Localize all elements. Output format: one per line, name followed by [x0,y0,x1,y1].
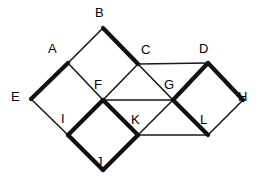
vertex-label-h: H [238,90,247,103]
edge-d-g [173,63,208,100]
edge-c-d [138,63,208,64]
vertex-label-k: K [131,113,140,126]
edge-h-l [208,100,243,135]
edge-g-k [138,100,173,135]
edge-j-k [103,135,138,170]
vertex-label-f: F [94,78,102,91]
vertex-label-b: B [95,6,104,19]
vertex-label-g: G [164,78,174,91]
vertex-label-i: I [61,112,65,125]
vertex-label-d: D [199,42,208,55]
edge-layer [31,28,243,170]
vertex-label-a: A [48,42,57,55]
edge-f-c [103,64,138,100]
diagram-canvas: ABCDEFGHIJKL [0,0,263,184]
edge-i-f [68,100,103,135]
vertex-label-l: L [200,113,207,126]
rhombic-lattice-figure [0,0,263,184]
edge-a-b [68,28,103,63]
vertex-label-c: C [141,43,150,56]
edge-a-e [31,63,68,99]
vertex-label-j: J [96,155,103,168]
edge-b-c [103,28,138,64]
vertex-label-e: E [11,90,20,103]
